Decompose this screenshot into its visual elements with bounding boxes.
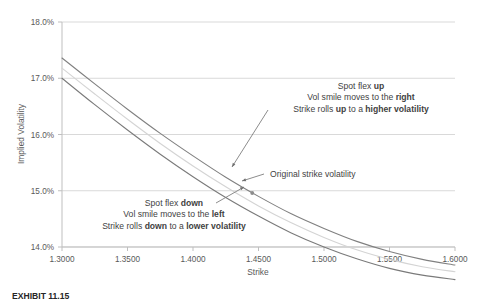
annotation-original-strike-volatility: Original strike volatility: [270, 169, 356, 179]
original-strike-marker: [250, 191, 254, 195]
caption-label: EXHIBIT 11.15: [12, 291, 69, 301]
y-tick-label: 18.0%: [31, 18, 54, 27]
x-axis-title: Strike: [247, 267, 269, 277]
x-tick-label: 1.5000: [311, 255, 336, 264]
x-tick-label: 1.4000: [180, 255, 205, 264]
y-axis-tick-labels: 14.0%15.0%16.0%17.0%18.0%: [31, 18, 54, 252]
implied-volatility-smile-chart: 14.0%15.0%16.0%17.0%18.0% 1.30001.35001.…: [0, 0, 480, 302]
figure-caption: EXHIBIT 11.15: [12, 291, 472, 302]
annotation-line: Strike rolls up to a higher volatility: [293, 104, 429, 114]
x-tick-label: 1.3500: [115, 255, 140, 264]
annotation-line: Original strike volatility: [270, 169, 356, 179]
annotation-line: Vol smile moves to the right: [307, 92, 415, 102]
annotation-line: Spot flex up: [338, 81, 384, 91]
y-tick-label: 14.0%: [31, 243, 54, 252]
original-strike-point: [250, 191, 254, 195]
annotation-line: Strike rolls down to a lower volatility: [102, 221, 246, 231]
y-axis-title: Implied Volatility: [16, 103, 26, 164]
y-tick-label: 17.0%: [31, 74, 54, 83]
annotation-line: Vol smile moves to the left: [123, 209, 224, 219]
x-tick-label: 1.4500: [246, 255, 271, 264]
y-tick-label: 16.0%: [31, 131, 54, 140]
y-tick-label: 15.0%: [31, 187, 54, 196]
x-tick-label: 1.6000: [442, 255, 467, 264]
figure-container: 14.0%15.0%16.0%17.0%18.0% 1.30001.35001.…: [0, 0, 480, 302]
x-tick-label: 1.3000: [49, 255, 74, 264]
annotation-line: Spot flex down: [145, 198, 203, 208]
